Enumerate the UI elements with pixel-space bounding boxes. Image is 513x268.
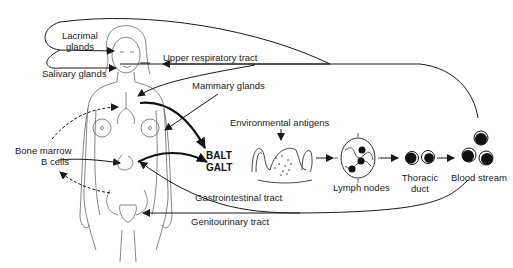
lacrimal-line1: Lacrimal xyxy=(62,30,98,41)
bone-marrow-b-cells-label: Bone marrow B cells xyxy=(15,145,71,167)
bone-marrow-line2: B cells xyxy=(15,156,71,167)
diagram: Lacrimal glands Salivary glands Upper re… xyxy=(0,0,513,268)
mammary-glands-label: Mammary glands xyxy=(192,80,265,91)
balt-galt-arrows xyxy=(138,103,207,162)
lacrimal-line2: glands xyxy=(62,41,98,52)
thoracic-line1: Thoracic xyxy=(400,172,440,183)
human-figure-icon xyxy=(80,26,172,262)
lymph-node-icon xyxy=(334,133,382,183)
thoracic-duct-cells-icon xyxy=(406,151,435,165)
balt-label: BALT xyxy=(206,150,232,161)
lacrimal-glands-label: Lacrimal glands xyxy=(62,30,98,52)
thoracic-line2: duct xyxy=(400,183,440,194)
thoracic-duct-label: Thoracic duct xyxy=(400,172,440,194)
genitourinary-tract-label: Genitourinary tract xyxy=(191,216,269,227)
salivary-glands-label: Salivary glands xyxy=(42,68,106,79)
upper-respiratory-tract-label: Upper respiratory tract xyxy=(163,52,258,63)
lymph-nodes-label: Lymph nodes xyxy=(333,182,390,193)
blood-stream-cells-icon xyxy=(462,131,493,165)
galt-label: GALT xyxy=(206,162,232,173)
mucosa-icon xyxy=(252,148,312,183)
blood-stream-label: Blood stream xyxy=(451,172,507,183)
bone-marrow-line1: Bone marrow xyxy=(15,145,71,156)
gastrointestinal-tract-label: Gastrointestinal tract xyxy=(195,192,282,203)
environmental-antigens-label: Environmental antigens xyxy=(230,117,329,128)
